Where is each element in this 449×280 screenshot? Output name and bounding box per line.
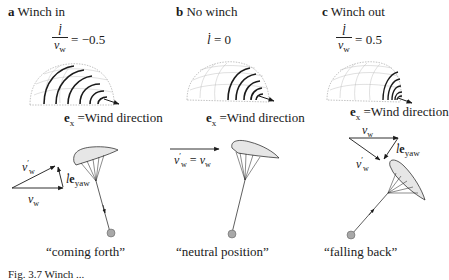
panel-a-vw-prime-label: v′w [22,159,35,176]
panel-a-title: a Winch in [8,4,65,20]
panel-c-vw-prime-label: v′w [356,156,369,173]
ground-station-a [107,229,115,237]
ground-station-b [228,230,236,238]
wind-window-a [30,64,119,105]
panel-a-letter: a [8,4,15,19]
panel-b-title-text: No winch [186,4,237,19]
wind-window-c [327,62,412,103]
panel-c-state-label: “falling back” [324,244,397,260]
panel-b-vw-equal-label: v′w = vw [174,152,211,169]
panel-b-equation: l̇ = 0 [207,32,231,48]
panel-c-l-eyaw-label: l̇eyaw [396,142,420,158]
panel-a-equation-value: = −0.5 [71,32,105,47]
kite-b [228,140,279,238]
panel-a-title-text: Winch in [18,4,66,19]
trajectory-b [228,68,263,100]
panel-c-equation: l̇ vw = 0.5 [336,24,382,56]
trajectory-c [383,72,402,100]
panel-a-wind-direction-label: ex =Wind direction [64,110,163,128]
panel-a-fraction: l̇ vw [52,24,68,56]
panel-c-letter: c [322,4,328,19]
wind-window-b [187,62,274,102]
panel-b-wind-direction-label: ex =Wind direction [206,110,305,128]
panel-a-l-eyaw-label: l̇eyaw [66,172,90,188]
trajectory-a [44,66,107,104]
velocity-diagram-a [12,166,63,188]
panel-a-vw-label: vw [28,192,39,208]
panel-b-state-label: “neutral position” [176,244,269,260]
panel-a-state-label: “coming forth” [46,244,125,260]
panel-a-equation: l̇ vw = −0.5 [52,24,105,56]
panel-c-title-text: Winch out [331,4,385,19]
panel-c-wind-direction-label: ex =Wind direction [350,104,449,122]
panel-c-title: c Winch out [322,4,385,20]
panel-b-letter: b [176,4,183,19]
ground-station-c [347,231,355,239]
kite-a [74,147,118,237]
panel-c-fraction: l̇ vw [336,24,352,56]
panel-c-vw-label: vw [362,123,373,139]
panel-b-title: b No winch [176,4,237,20]
panel-c-equation-value: = 0.5 [355,32,382,47]
figure-caption: Fig. 3.7 Winch ... [8,268,84,280]
